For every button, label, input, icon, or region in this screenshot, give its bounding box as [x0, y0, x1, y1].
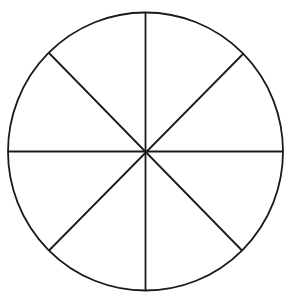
dividing-lines [8, 13, 283, 291]
eight-sector-circle-diagram [0, 0, 291, 300]
